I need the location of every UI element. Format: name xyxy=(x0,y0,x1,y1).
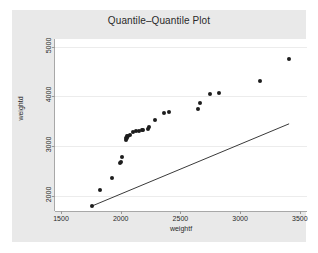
y-tick-label: 2000 xyxy=(45,181,52,209)
data-point xyxy=(217,91,221,95)
x-tick-label: 1500 xyxy=(53,215,69,222)
y-tick-label: 3000 xyxy=(45,131,52,159)
y-tick-mark xyxy=(52,47,55,48)
data-point xyxy=(287,57,291,61)
chart-title: Quantile–Quantile Plot xyxy=(12,15,306,26)
x-axis-label: weightf xyxy=(55,225,307,232)
x-tick-label: 2500 xyxy=(173,215,189,222)
x-tick-mark xyxy=(240,211,241,214)
figure-canvas: Quantile–Quantile Plot 15002000250030003… xyxy=(12,10,306,242)
data-point xyxy=(120,155,124,159)
data-point xyxy=(110,176,114,180)
data-point xyxy=(128,133,132,137)
x-tick-mark xyxy=(121,211,122,214)
y-tick-mark xyxy=(52,146,55,147)
y-axis-label: weightd xyxy=(17,74,24,144)
y-tick-mark xyxy=(52,196,55,197)
y-tick-mark xyxy=(52,96,55,97)
data-point xyxy=(119,160,123,164)
x-tick-mark xyxy=(180,211,181,214)
data-point xyxy=(167,110,171,114)
plot-area xyxy=(55,39,307,211)
x-tick-mark xyxy=(300,211,301,214)
x-tick-label: 2000 xyxy=(113,215,129,222)
y-tick-label: 5000 xyxy=(45,31,52,59)
data-point xyxy=(198,101,202,105)
y-tick-label: 4000 xyxy=(45,81,52,109)
x-tick-mark xyxy=(61,211,62,214)
x-tick-label: 3500 xyxy=(292,215,308,222)
data-point xyxy=(90,204,94,208)
reference-line-group xyxy=(55,39,307,211)
identity-reference-line xyxy=(92,124,289,206)
x-tick-label: 3000 xyxy=(232,215,248,222)
